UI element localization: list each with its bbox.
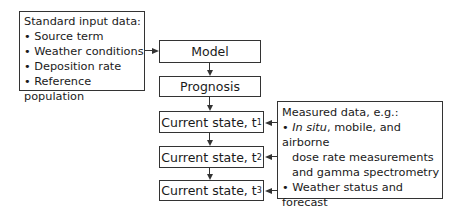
input-item: • Reference population xyxy=(24,74,144,104)
current-state-t1-box: Current state, t1 xyxy=(159,111,264,133)
measured-item-cont: dose rate measurements xyxy=(282,150,442,165)
measured-data-box: Measured data, e.g.: • In situ, mobile, … xyxy=(277,101,443,199)
input-item: • Weather conditions xyxy=(24,44,144,59)
input-item: • Deposition rate xyxy=(24,59,144,74)
measured-item-cont: and gamma spectrometry xyxy=(282,165,442,180)
input-item: • Source term xyxy=(24,29,144,44)
current-state-t3-box: Current state, t3 xyxy=(159,180,264,201)
measured-item: • Weather status and forecast xyxy=(282,180,442,206)
arrow-head-icon xyxy=(265,154,272,160)
connector-input-model xyxy=(145,50,152,51)
arrow-head-icon xyxy=(265,120,272,126)
arrow-head-icon xyxy=(152,48,159,54)
measured-title: Measured data, e.g.: xyxy=(282,105,442,120)
prognosis-box: Prognosis xyxy=(159,76,261,97)
arrow-head-icon xyxy=(265,188,272,194)
standard-input-box: Standard input data: • Source term • Wea… xyxy=(19,11,145,91)
current-state-t2-box: Current state, t2 xyxy=(159,146,264,168)
input-title: Standard input data: xyxy=(24,14,144,29)
model-box: Model xyxy=(159,40,261,63)
measured-item: • In situ, mobile, and airborne xyxy=(282,120,442,150)
